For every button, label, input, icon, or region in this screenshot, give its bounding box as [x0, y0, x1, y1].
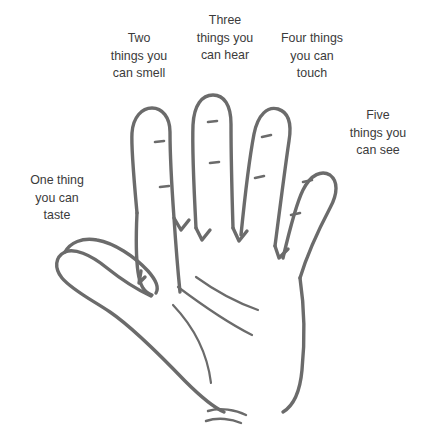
wrist-crease-lower [206, 419, 241, 423]
label-four-things-touch: Four things you can touch [268, 30, 356, 83]
middle-knuckle-mark-upper [208, 121, 217, 122]
ring-knuckle-mark-upper [262, 135, 271, 137]
index-knuckle-mark-lower [160, 186, 169, 187]
wrist-crease-upper [208, 409, 246, 415]
pinky-finger-outline [283, 173, 336, 278]
thumb-web-notch [139, 271, 145, 283]
ring-finger-outline [241, 108, 290, 246]
pinky-knuckle-mark-upper [303, 180, 312, 182]
label-two-things-smell: Two things you can smell [90, 30, 188, 83]
middle-base-notch-left [196, 228, 210, 240]
index-knuckle-mark-upper [155, 141, 164, 142]
ring-knuckle-mark-lower [255, 176, 264, 178]
pinky-knuckle-mark-lower [291, 213, 300, 215]
label-five-things-see: Five things you can see [337, 107, 419, 160]
label-three-things-hear: Three things you can hear [181, 12, 269, 65]
palm-line-life [173, 305, 211, 383]
middle-knuckle-mark-lower [210, 162, 219, 163]
palm-line-heart [196, 277, 258, 310]
five-senses-hand-diagram: One thing you can taste Two things you c… [0, 0, 425, 443]
label-one-thing-taste: One thing you can taste [8, 172, 106, 225]
thumb-upper-edge [65, 239, 157, 293]
palm-line-head [178, 287, 252, 335]
hand-right-edge [283, 278, 304, 412]
